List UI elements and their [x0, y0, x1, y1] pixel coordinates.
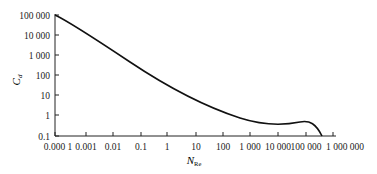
y-tick-label: 100 000 — [19, 11, 50, 21]
drag-curve — [55, 15, 322, 136]
svg-text:Cd: Cd — [10, 74, 24, 85]
x-tick-label: 0.001 — [75, 142, 97, 152]
x-tick-label: 10 000 — [265, 142, 291, 152]
x-axis-title: NRe — [186, 154, 202, 167]
y-tick-label: 1 000 — [29, 51, 51, 61]
y-axis: 100 00010 0001 0001001010.1 — [19, 11, 59, 142]
drag-coefficient-chart: 100 00010 0001 0001001010.1 0.000 10.001… — [0, 0, 377, 174]
y-tick-label: 100 — [36, 71, 51, 81]
x-tick-label: 1 000 000 — [326, 142, 364, 152]
x-tick-label: 0.01 — [105, 142, 122, 152]
x-tick-label: 10 — [191, 142, 201, 152]
y-axis-title: Cd — [10, 74, 24, 85]
svg-text:NRe: NRe — [186, 154, 202, 167]
x-tick-label: 1 — [165, 142, 170, 152]
y-tick-label: 10 — [41, 91, 51, 101]
y-tick-label: 10 000 — [24, 31, 50, 41]
x-tick-label: 100 — [216, 142, 231, 152]
x-tick-label: 1 000 — [239, 142, 261, 152]
x-tick-label: 0.000 1 — [44, 142, 73, 152]
x-tick-label: 0.1 — [135, 142, 147, 152]
x-axis: 0.000 10.0010.010.11101001 00010 000100 … — [44, 132, 365, 152]
x-tick-label: 100 000 — [291, 142, 322, 152]
y-tick-label: 1 — [45, 111, 50, 121]
y-tick-label: 0.1 — [38, 132, 50, 142]
